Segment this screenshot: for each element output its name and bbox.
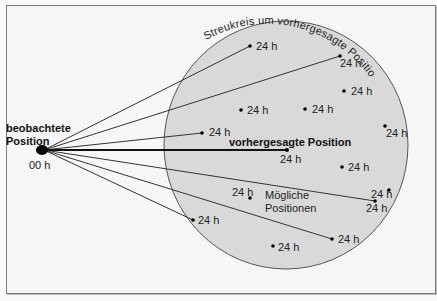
svg-text:24 h: 24 h: [366, 202, 387, 214]
observed-position-label: beobachtete: [6, 122, 71, 134]
svg-text:24 h: 24 h: [386, 127, 407, 139]
svg-text:24 h: 24 h: [351, 85, 372, 97]
svg-text:24 h: 24 h: [278, 241, 299, 253]
observed-position-label-line2: Position: [6, 135, 50, 147]
possible-positions-label-line2: Positionen: [265, 202, 316, 214]
svg-text:24 h: 24 h: [348, 161, 369, 173]
svg-text:24 h: 24 h: [256, 40, 277, 52]
predicted-time-label: 24 h: [280, 153, 301, 165]
svg-text:24 h: 24 h: [232, 186, 253, 198]
svg-text:24 h: 24 h: [371, 188, 392, 200]
svg-text:24 h: 24 h: [312, 103, 333, 115]
scatter-circle-diagram: Streukreis um vorhergesagte Position beo…: [0, 0, 437, 301]
svg-text:24 h: 24 h: [209, 126, 230, 138]
svg-text:24 h: 24 h: [247, 104, 268, 116]
svg-text:24 h: 24 h: [340, 57, 361, 69]
predicted-position-label: vorhergesagte Position: [229, 136, 352, 148]
svg-text:24 h: 24 h: [198, 214, 219, 226]
observed-time-label: 00 h: [29, 159, 50, 171]
possible-positions-label: Mögliche: [265, 189, 309, 201]
svg-text:24 h: 24 h: [338, 233, 359, 245]
